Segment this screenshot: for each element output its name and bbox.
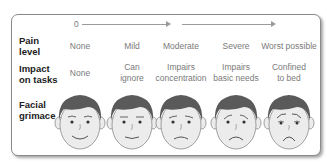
impact-text: Impairs — [206, 62, 266, 73]
distressed-face-icon — [263, 91, 315, 151]
impact-text: basic needs — [206, 73, 266, 84]
impact-text: to bed — [259, 73, 319, 84]
slight-smile-face-icon — [106, 91, 158, 151]
pain-level-moderate: Moderate — [151, 41, 211, 52]
impact-confined-to-bed: Confined to bed — [259, 62, 319, 83]
pain-scale-card: 0 Pain level None Mild Moderate Severe W… — [11, 14, 321, 156]
impact-text: None — [50, 68, 110, 79]
impact-none: None — [50, 68, 110, 79]
label-line: level — [19, 46, 40, 57]
arrow-right-icon — [166, 21, 171, 27]
label-line: grimace — [19, 110, 55, 121]
pain-level-worst: Worst possible — [256, 41, 322, 52]
scale-line-segment — [82, 24, 167, 25]
scale-line-segment — [182, 24, 272, 25]
impact-text: concentration — [148, 73, 214, 84]
scale-tick-0: 0 — [74, 19, 79, 29]
frowning-face-icon — [210, 91, 262, 151]
impact-impairs-basic-needs: Impairs basic needs — [206, 62, 266, 83]
smiling-face-icon — [54, 91, 106, 151]
impact-text: Impairs — [148, 62, 214, 73]
impact-text: Confined — [259, 62, 319, 73]
pain-level-none: None — [50, 41, 110, 52]
arrow-right-icon — [271, 21, 276, 27]
row-label-grimace: Facial grimace — [19, 99, 55, 121]
label-line: Pain — [19, 35, 40, 46]
impact-impairs-concentration: Impairs concentration — [148, 62, 214, 83]
label-line: Facial — [19, 99, 55, 110]
row-label-pain-level: Pain level — [19, 35, 40, 57]
neutral-frown-face-icon — [155, 91, 207, 151]
